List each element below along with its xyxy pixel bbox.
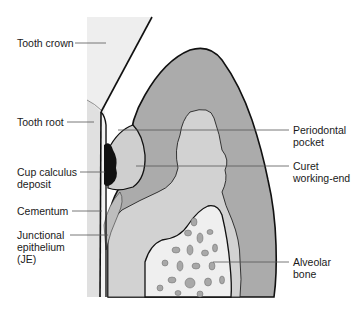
label-alveolar-bone: Alveolar bone bbox=[293, 256, 331, 280]
label-curet-working-end: Curet working-end bbox=[293, 160, 350, 184]
label-cup-calculus: Cup calculus deposit bbox=[17, 166, 77, 190]
root-surface bbox=[100, 112, 101, 297]
root-area bbox=[87, 100, 100, 297]
label-periodontal-pocket: Periodontal pocket bbox=[293, 124, 346, 148]
label-cementum: Cementum bbox=[17, 205, 68, 217]
label-junctional-epithelium: Junctional epithelium (JE) bbox=[17, 229, 65, 265]
label-tooth-root: Tooth root bbox=[17, 116, 64, 128]
label-tooth-crown: Tooth crown bbox=[17, 37, 74, 49]
